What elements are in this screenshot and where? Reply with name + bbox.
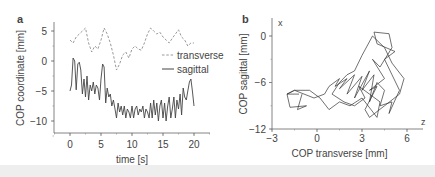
x-axis-label: time [s] [116, 154, 148, 165]
panel-label: a [17, 13, 24, 25]
caption-band [0, 165, 435, 177]
timeseries-chart: 50−5−1005101520time [s]COP coordinate [m… [0, 0, 225, 165]
y-tick-label: 0 [260, 31, 266, 42]
panel-label: b [242, 13, 249, 25]
stabilogram-chart: 0−6−12−3036COP transverse [mm]COP sagitt… [225, 0, 435, 165]
panel-a-timeseries: 50−5−1005101520time [s]COP coordinate [m… [0, 0, 225, 165]
y-tick-label: 0 [41, 56, 47, 67]
panel-b-stabilogram: 0−6−12−3036COP transverse [mm]COP sagitt… [225, 0, 435, 165]
y-axis-letter: x [278, 18, 283, 28]
x-tick-label: 5 [98, 139, 104, 150]
y-tick-label: 5 [41, 26, 47, 37]
x-tick-label: 0 [67, 139, 73, 150]
x-tick-label: 15 [157, 139, 169, 150]
x-tick-label: 20 [188, 139, 200, 150]
legend-label: sagittal [177, 64, 209, 75]
series-sagittal [70, 58, 194, 121]
legend: transversesagittal [162, 50, 224, 75]
x-tick-label: −3 [266, 133, 278, 144]
y-axis-label: COP coordinate [mm] [15, 30, 26, 126]
y-tick-label: −5 [36, 86, 48, 97]
x-tick-label: 0 [314, 133, 320, 144]
x-tick-label: 3 [359, 133, 365, 144]
legend-label: transverse [177, 50, 224, 61]
series-transverse [70, 28, 194, 70]
series-stabilogram [287, 32, 404, 117]
x-axis-label: COP transverse [mm] [292, 148, 388, 159]
y-tick-label: −6 [255, 77, 267, 88]
x-tick-label: 6 [404, 133, 410, 144]
y-tick-label: −12 [249, 124, 266, 135]
x-tick-label: 10 [126, 139, 138, 150]
y-axis-label: COP sagittal [mm] [238, 33, 249, 114]
y-tick-label: −10 [30, 116, 47, 127]
x-axis-letter: z [421, 117, 426, 127]
